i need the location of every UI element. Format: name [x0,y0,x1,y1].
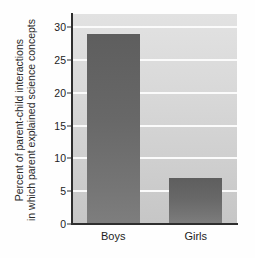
y-axis-title-line-1: Percent of parent-child interactions [14,39,25,201]
plot-area [72,14,237,224]
x-axis-line [71,223,238,225]
y-tick-label: 10 [54,152,66,164]
y-axis-line [71,13,73,225]
y-axis-title: Percent of parent-child interactions in … [6,0,42,240]
gridline [72,26,237,28]
y-tick-label: 15 [54,120,66,132]
bar-girls [169,178,222,224]
x-tick-label-girls: Girls [184,230,207,242]
y-axis-title-line-2: in which parent explained science concep… [26,19,37,221]
bar-boys [87,34,140,224]
y-axis-tick-labels: 051015202530 [42,0,66,258]
y-tick-label: 30 [54,21,66,33]
x-tick-label-boys: Boys [101,230,125,242]
y-tick-label: 20 [54,87,66,99]
y-tick-label: 25 [54,54,66,66]
bar-chart: Percent of parent-child interactions in … [0,0,255,258]
y-tick-label: 0 [60,218,66,230]
y-tick-label: 5 [60,185,66,197]
